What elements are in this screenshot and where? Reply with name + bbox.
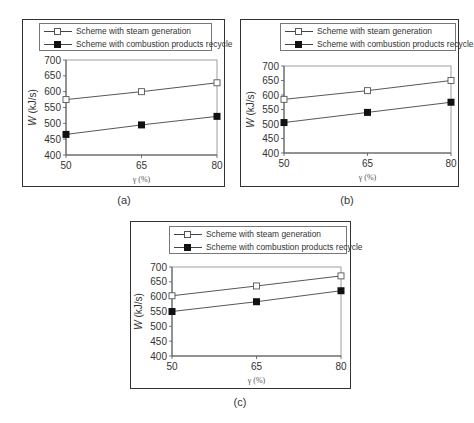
open-square-marker-icon <box>254 283 260 289</box>
plot-frame <box>172 267 341 356</box>
y-tick-label: 550 <box>150 306 167 317</box>
x-axis: 506580 <box>166 356 347 372</box>
y-tick-label: 450 <box>150 336 167 347</box>
filled-square-marker-icon <box>169 308 176 315</box>
y-tick-label: 650 <box>150 276 167 287</box>
series-combustion-recycle <box>169 287 345 315</box>
y-axis-label: W (kJ/s) <box>133 293 144 330</box>
caption-c: (c) <box>220 396 260 408</box>
y-tick-label: 600 <box>150 291 167 302</box>
x-tick-label: 65 <box>251 361 263 372</box>
plot-area-c: 400450500550600650700506580γ (%)W (kJ/s) <box>0 0 474 423</box>
y-tick-label: 400 <box>150 351 167 362</box>
open-square-marker-icon <box>338 273 344 279</box>
x-axis-label: γ (%) <box>247 376 266 385</box>
y-tick-label: 700 <box>150 262 167 273</box>
x-tick-label: 50 <box>166 361 178 372</box>
filled-square-marker-icon <box>253 298 260 305</box>
y-tick-label: 500 <box>150 321 167 332</box>
open-square-marker-icon <box>169 293 175 299</box>
series-steam-generation <box>169 273 344 299</box>
filled-square-marker-icon <box>338 287 345 294</box>
x-tick-label: 80 <box>335 361 347 372</box>
